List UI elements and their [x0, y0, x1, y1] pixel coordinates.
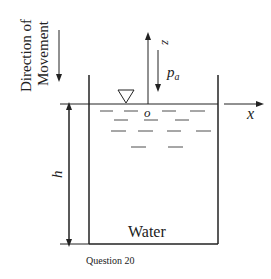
- figure-caption: Question 20: [86, 255, 135, 266]
- height-label: h: [49, 171, 65, 179]
- water-label: Water: [128, 223, 166, 240]
- direction-label-line2: Movement: [35, 20, 51, 86]
- z-axis-label: z: [159, 39, 174, 45]
- direction-of-movement-label: Direction of Movement: [18, 19, 51, 92]
- water-dashes: [100, 111, 211, 147]
- tank: [89, 75, 218, 244]
- origin-label: o: [144, 105, 151, 120]
- free-surface-icon: [118, 90, 134, 103]
- direction-label-line1: Direction of: [18, 19, 34, 92]
- tank-diagram: Direction of Movement z pa x o: [0, 0, 271, 279]
- x-axis-label: x: [246, 105, 254, 122]
- pressure-label: pa: [166, 64, 180, 82]
